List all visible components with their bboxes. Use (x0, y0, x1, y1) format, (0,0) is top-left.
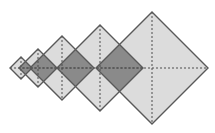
figure-canvas (0, 0, 215, 133)
diamond-sequence-diagram (0, 0, 215, 133)
